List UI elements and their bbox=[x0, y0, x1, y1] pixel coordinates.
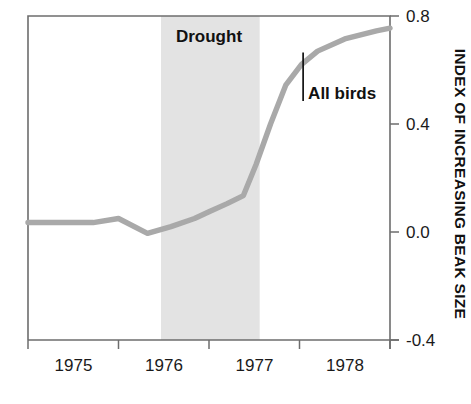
chart-figure: All birds Drought 1975197619771978 0.80.… bbox=[0, 0, 471, 404]
y-tick-label: -0.4 bbox=[406, 331, 435, 350]
all-birds-label: All birds bbox=[308, 84, 376, 103]
x-tick-label: 1975 bbox=[55, 356, 93, 375]
x-tick-label: 1978 bbox=[326, 356, 364, 375]
beak-size-line-chart: All birds Drought 1975197619771978 0.80.… bbox=[0, 0, 471, 404]
x-tick-label: 1976 bbox=[145, 356, 183, 375]
drought-label: Drought bbox=[176, 27, 242, 46]
shaded-region-group bbox=[161, 16, 260, 340]
y-tick-label: 0.4 bbox=[406, 115, 430, 134]
y-axis-title: INDEX OF INCREASING BEAK SIZE bbox=[452, 49, 469, 320]
y-tick-label: 0.8 bbox=[406, 7, 430, 26]
x-tick-label: 1977 bbox=[236, 356, 274, 375]
drought-shaded-band bbox=[161, 16, 260, 340]
y-tick-label: 0.0 bbox=[406, 223, 430, 242]
